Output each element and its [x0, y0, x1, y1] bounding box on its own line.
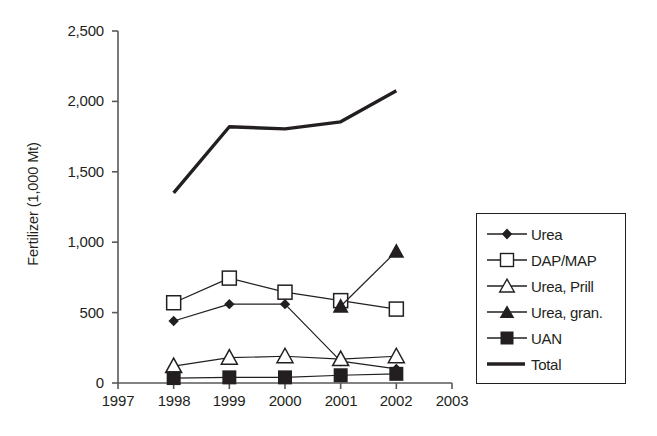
filled-diamond-icon — [485, 224, 529, 244]
open-triangle-icon — [485, 276, 529, 296]
legend: Urea DAP/MAP Urea, Prill — [476, 213, 626, 384]
fertilizer-line-chart: Fertilizer (1,000 Mt) 2,500 2,000 1,500 … — [0, 0, 657, 436]
y-tick-marks — [112, 31, 118, 383]
legend-label-dap-map: DAP/MAP — [529, 252, 596, 269]
legend-item-uan: UAN — [485, 325, 625, 351]
legend-label-uan: UAN — [529, 330, 562, 347]
series-total — [174, 91, 397, 193]
open-square-icon — [485, 250, 529, 270]
thick-line-icon — [485, 354, 529, 374]
legend-label-urea-prill: Urea, Prill — [529, 278, 594, 295]
series-urea-prill — [166, 348, 405, 372]
legend-item-dap-map: DAP/MAP — [485, 247, 625, 273]
data-series-layer — [166, 91, 405, 385]
legend-label-urea-gran: Urea, gran. — [529, 304, 603, 321]
filled-square-icon — [485, 328, 529, 348]
legend-item-urea: Urea — [485, 221, 625, 247]
filled-triangle-icon — [485, 302, 529, 322]
legend-item-urea-prill: Urea, Prill — [485, 273, 625, 299]
legend-label-urea: Urea — [529, 226, 562, 243]
legend-item-urea-gran: Urea, gran. — [485, 299, 625, 325]
axis-lines — [118, 31, 452, 383]
legend-label-total: Total — [529, 356, 561, 373]
legend-item-total: Total — [485, 351, 625, 377]
